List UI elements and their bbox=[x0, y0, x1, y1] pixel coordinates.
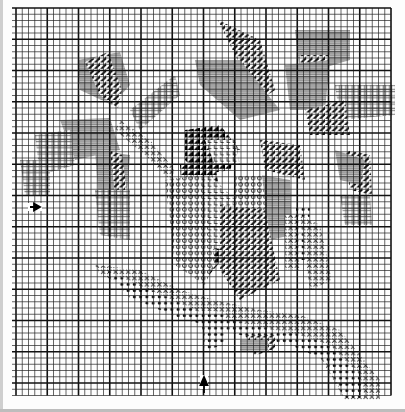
col-center-arrow-icon bbox=[200, 375, 208, 393]
stitch-region-grey-hatch bbox=[240, 340, 268, 352]
row-center-arrow-icon bbox=[28, 203, 42, 211]
cross-stitch-chart bbox=[0, 0, 405, 412]
chart-page: Cross-stitch chart: bird on branch bbox=[0, 0, 405, 412]
stitch-region-cross-hatch bbox=[95, 190, 130, 240]
